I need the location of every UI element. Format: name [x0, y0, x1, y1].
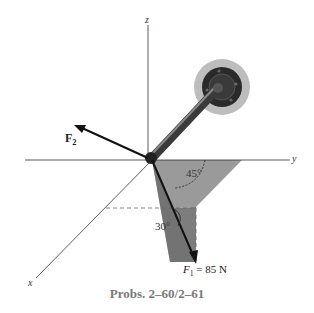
f2-arrow-line	[82, 128, 148, 158]
rod-highlight	[151, 86, 216, 155]
diagram-canvas	[0, 0, 314, 313]
rod-top-cap	[213, 83, 223, 93]
f2-label: F2	[65, 131, 77, 147]
f1-subscript: 1	[190, 269, 194, 278]
angle-label-30: 30°	[155, 220, 170, 232]
f1-value: = 85 N	[196, 263, 227, 275]
f1-symbol: F	[183, 263, 190, 275]
z-axis-label: z	[145, 14, 149, 25]
bolt	[229, 98, 232, 101]
bolt	[205, 88, 208, 91]
y-axis-label: y	[292, 153, 296, 164]
bolt	[234, 82, 237, 85]
f1-label: F1 = 85 N	[183, 263, 227, 278]
f2-subscript: 2	[72, 138, 76, 147]
angle-label-45: 45°	[186, 167, 201, 179]
x-axis	[36, 160, 152, 278]
figure-caption: Probs. 2–60/2–61	[0, 286, 314, 302]
rod	[152, 88, 218, 158]
bolt	[217, 69, 220, 72]
